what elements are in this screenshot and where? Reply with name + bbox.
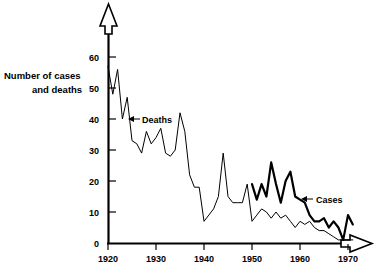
y-axis-title-line1: Number of cases	[4, 70, 81, 81]
series-line-deaths	[108, 66, 353, 240]
x-tick-label-1970: 1970	[338, 254, 358, 264]
y-tick-label-60: 60	[89, 53, 99, 63]
y-tick-label-30: 30	[89, 146, 99, 156]
x-tick-label-1960: 1960	[290, 254, 310, 264]
x-tick-label-1940: 1940	[194, 254, 214, 264]
x-axis-ticks	[108, 244, 348, 250]
annotation-cases: Cases	[301, 195, 343, 205]
annotation-deaths: Deaths	[128, 115, 172, 125]
x-axis	[107, 235, 372, 252]
y-tick-label-10: 10	[89, 208, 99, 218]
y-axis	[100, 4, 117, 243]
x-tick-label-1920: 1920	[98, 254, 118, 264]
x-tick-label-1950: 1950	[242, 254, 262, 264]
y-tick-label-50: 50	[89, 84, 99, 94]
x-tick-label-1930: 1930	[146, 254, 166, 264]
line-chart: Number of cases and deaths 60 50 40 30 2…	[0, 0, 380, 274]
y-tick-label-20: 20	[89, 177, 99, 187]
chart-container: Number of cases and deaths 60 50 40 30 2…	[0, 0, 380, 274]
y-tick-label-40: 40	[89, 115, 99, 125]
annotation-deaths-label: Deaths	[142, 115, 172, 125]
y-tick-label-0: 0	[94, 239, 99, 249]
x-axis-tick-labels: 1920 1930 1940 1950 1960 1970	[98, 254, 358, 264]
y-axis-tick-labels: 60 50 40 30 20 10 0	[89, 53, 99, 249]
y-axis-title-line2: and deaths	[32, 84, 82, 95]
annotation-cases-label: Cases	[316, 195, 343, 205]
y-axis-title: Number of cases and deaths	[4, 70, 82, 95]
